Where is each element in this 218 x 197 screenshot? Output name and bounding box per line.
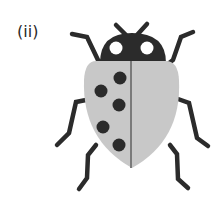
eye-right <box>141 42 154 55</box>
spot <box>114 72 127 85</box>
spot <box>113 99 126 112</box>
leg-back-left <box>79 145 96 189</box>
spot <box>95 85 108 98</box>
leg-mid-right <box>178 99 208 146</box>
eye-left <box>110 42 123 55</box>
ladybug-icon <box>0 0 218 197</box>
spot <box>97 121 110 134</box>
spot <box>113 139 126 152</box>
leg-mid-left <box>57 100 86 145</box>
leg-back-right <box>170 145 188 188</box>
